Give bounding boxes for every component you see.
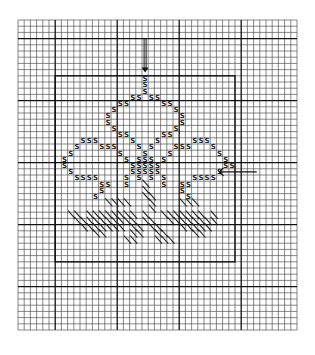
s-stitch: S (155, 94, 160, 102)
s-stitch: S (118, 100, 123, 108)
s-stitch: S (198, 137, 203, 145)
s-stitch: S (124, 156, 129, 164)
s-stitch: S (93, 193, 98, 201)
s-stitch: S (186, 143, 191, 151)
s-stitch: S (74, 174, 79, 182)
s-stitch: S (161, 181, 166, 189)
s-stitch: S (211, 143, 216, 151)
s-stitch: S (118, 150, 123, 158)
s-stitch: S (136, 94, 141, 102)
s-stitch: S (118, 131, 123, 139)
arrow-down-icon (142, 68, 149, 73)
s-stitch: S (174, 125, 179, 133)
s-stitch: S (105, 119, 110, 127)
s-stitch: S (112, 143, 117, 151)
s-stitch: S (192, 137, 197, 145)
s-stitch: S (186, 181, 191, 189)
s-stitch: S (99, 187, 104, 195)
s-stitch: S (205, 174, 210, 182)
s-stitch: S (124, 131, 129, 139)
diagonal-hatch-stitches (68, 180, 218, 244)
s-stitch: S (161, 100, 166, 108)
s-stitch: S (136, 143, 141, 151)
s-stitch: S (136, 174, 141, 182)
s-stitch: S (167, 150, 172, 158)
s-stitch: S (155, 137, 160, 145)
s-stitch: S (124, 181, 129, 189)
s-stitch: S (68, 168, 73, 176)
s-stitch: S (192, 174, 197, 182)
s-stitch: S (112, 106, 117, 114)
s-stitch: S (81, 174, 86, 182)
s-stitch: S (155, 168, 160, 176)
s-stitch: S (105, 181, 110, 189)
s-stitch: S (130, 94, 135, 102)
s-stitch: S (161, 156, 166, 164)
s-stitch: S (174, 143, 179, 151)
s-stitch: S (205, 137, 210, 145)
s-stitch: S (149, 174, 154, 182)
s-stitch: S (167, 100, 172, 108)
s-stitch: S (180, 187, 185, 195)
s-stitch: S (93, 174, 98, 182)
s-stitch: S (87, 174, 92, 182)
s-stitch: S (180, 143, 185, 151)
s-stitch: S (149, 94, 154, 102)
s-stitch: S (81, 137, 86, 145)
s-stitch: S (143, 168, 148, 176)
s-stitch: S (161, 131, 166, 139)
s-stitch: S (229, 162, 234, 170)
s-stitch: S (130, 168, 135, 176)
s-stitch: S (211, 174, 216, 182)
s-stitch: S (167, 131, 172, 139)
s-stitch: S (105, 143, 110, 151)
s-stitch: S (62, 162, 67, 170)
s-stitch: S (217, 150, 222, 158)
s-stitch: S (124, 100, 129, 108)
s-stitch: S (130, 137, 135, 145)
s-stitch: S (186, 193, 191, 201)
s-stitch: S (112, 125, 117, 133)
center-arrows (142, 39, 257, 176)
s-stitch: S (99, 143, 104, 151)
s-stitch: S (93, 137, 98, 145)
s-stitch: S (223, 162, 228, 170)
s-stitch: S (143, 88, 148, 96)
s-stitch: S (149, 143, 154, 151)
s-stitch: S (87, 137, 92, 145)
s-stitch: S (68, 150, 73, 158)
cross-stitch-chart: SSSSSSSSSSSSSSSSSSSSSSSSSSSSSSSSSSSSSSSS… (0, 0, 315, 355)
s-stitch: S (198, 174, 203, 182)
s-stitch: S (174, 106, 179, 114)
s-stitch: S (74, 143, 79, 151)
s-stitch: S (180, 119, 185, 127)
